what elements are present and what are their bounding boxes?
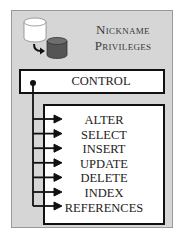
privilege-insert: INSERT bbox=[45, 142, 163, 157]
diagram-title: Nickname Privileges bbox=[78, 22, 168, 54]
privilege-update: UPDATE bbox=[45, 157, 163, 172]
privilege-index: INDEX bbox=[45, 186, 163, 201]
title-line-2: Privileges bbox=[78, 38, 168, 54]
control-privilege-box: CONTROL bbox=[19, 69, 165, 94]
privilege-delete: DELETE bbox=[45, 171, 163, 186]
control-label: CONTROL bbox=[21, 74, 163, 89]
privilege-alter: ALTER bbox=[45, 113, 163, 128]
sub-privileges-box: ALTER SELECT INSERT UPDATE DELETE INDEX … bbox=[43, 104, 165, 225]
database-copy-icon bbox=[21, 16, 71, 62]
privilege-select: SELECT bbox=[45, 128, 163, 143]
privilege-list: ALTER SELECT INSERT UPDATE DELETE INDEX … bbox=[45, 113, 163, 215]
title-line-1: Nickname bbox=[78, 22, 168, 38]
privilege-references: REFERENCES bbox=[45, 201, 163, 216]
nickname-privileges-panel: Nickname Privileges CONTROL ALTER SELECT… bbox=[11, 10, 173, 228]
